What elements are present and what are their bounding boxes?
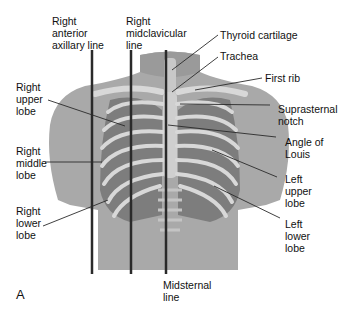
label-suprasternal-notch: Suprasternal notch (278, 103, 338, 127)
label-trachea: Trachea (220, 50, 258, 62)
label-thyroid-cartilage: Thyroid cartilage (220, 29, 298, 41)
label-right-middle-lobe: Right middle lobe (16, 145, 47, 181)
label-left-lower-lobe: Left lower lobe (285, 218, 310, 254)
label-midsternal-line: Midsternal line (163, 279, 211, 303)
chest-anatomy-diagram: Right anterior axillary line Right midcl… (0, 0, 349, 314)
panel-letter: A (16, 287, 25, 302)
label-first-rib: First rib (265, 72, 300, 84)
label-right-upper-lobe: Right upper lobe (16, 81, 43, 117)
label-right-midclavicular-line: Right midclavicular line (126, 15, 187, 51)
label-left-upper-lobe: Left upper lobe (285, 173, 312, 209)
label-right-anterior-axillary-line: Right anterior axillary line (52, 15, 104, 51)
label-right-lower-lobe: Right lower lobe (16, 205, 41, 241)
label-angle-of-louis: Angle of Louis (285, 136, 324, 160)
